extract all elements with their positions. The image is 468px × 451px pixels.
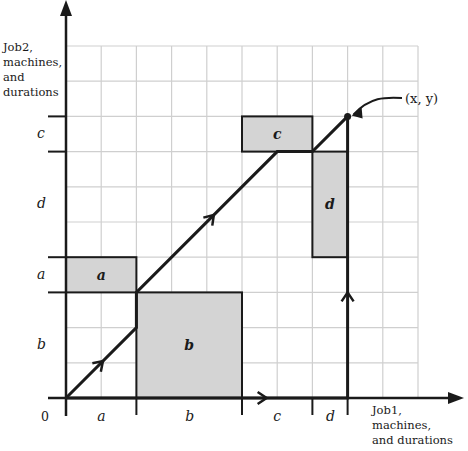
blocked-region-label: a [97,267,106,283]
y-segment-label: b [37,337,46,352]
y-axis-title-line: Job2, [3,40,62,55]
blocked-region-label: c [273,126,282,142]
endpoint-label: (x, y) [405,91,438,106]
x-segment-label: c [273,409,281,424]
y-axis-title-line: durations [3,85,62,100]
blocked-region-label: b [184,337,194,353]
y-segment-label: d [37,196,46,211]
x-segment-label: b [185,409,194,424]
x-segment-label: d [326,409,335,424]
blocked-region-label: d [325,196,335,212]
y-axis-title: Job2, machines, and durations [3,40,62,100]
x-axis-title-line: machines, [372,418,453,433]
y-segment-label: a [37,267,45,282]
y-axis-title-line: machines, [3,55,62,70]
x-segment-label: a [97,409,105,424]
x-axis-title-line: and durations [372,433,453,448]
y-segment-label: c [37,126,45,141]
endpoint-dot [344,113,351,120]
x-axis-title-line: Job1, [372,403,453,418]
x-axis-title: Job1, machines, and durations [372,403,453,448]
schedule-diagram: abcd [0,0,468,451]
origin-label: 0 [41,409,49,424]
y-axis-title-line: and [3,70,62,85]
y-axis-arrow-icon [60,0,72,16]
